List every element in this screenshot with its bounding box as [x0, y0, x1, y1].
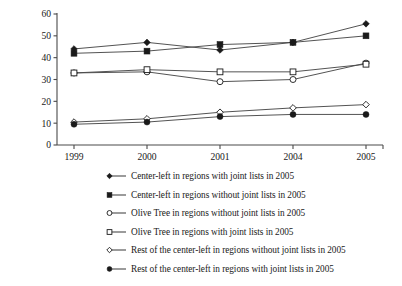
- data-point-marker: [363, 33, 369, 39]
- chart-svg: 010203040506019992000200120042005: [0, 0, 402, 165]
- data-point-marker: [290, 39, 296, 45]
- x-axis-tick-label: 1999: [64, 151, 83, 162]
- data-point-marker: [144, 67, 150, 73]
- data-point-marker: [217, 79, 223, 85]
- legend-marker-open-diamond-icon: [104, 243, 128, 257]
- y-axis-tick-label: 0: [46, 139, 51, 150]
- legend-item: Center-left in regions without joint lis…: [104, 186, 394, 205]
- x-axis-tick-label: 2001: [210, 151, 229, 162]
- data-point-marker: [363, 111, 369, 117]
- y-axis-tick-label: 30: [41, 74, 51, 85]
- data-point-marker: [290, 111, 296, 117]
- legend-marker-filled-diamond-icon: [104, 169, 128, 183]
- data-point-marker: [217, 114, 223, 120]
- x-axis-tick-label: 2000: [137, 151, 156, 162]
- y-axis-tick-label: 60: [41, 8, 51, 19]
- y-axis-tick-label: 40: [41, 52, 51, 63]
- data-point-marker: [144, 39, 151, 46]
- chart-legend: Center-left in regions with joint lists …: [104, 167, 394, 278]
- legend-item-label: Rest of the center-left in regions with …: [128, 264, 334, 274]
- legend-item: Olive Tree in regions with joint lists i…: [104, 223, 394, 242]
- legend-item-label: Olive Tree in regions without joint list…: [128, 208, 305, 218]
- data-point-marker: [71, 50, 77, 56]
- legend-item: Rest of the center-left in regions with …: [104, 260, 394, 279]
- data-point-marker: [144, 48, 150, 54]
- x-axis-tick-label: 2005: [356, 151, 375, 162]
- line-chart-plot: 010203040506019992000200120042005: [0, 0, 402, 165]
- legend-item-label: Olive Tree in regions with joint lists i…: [128, 227, 293, 237]
- data-point-marker: [217, 42, 223, 48]
- data-point-marker: [217, 69, 223, 75]
- data-point-marker: [71, 121, 77, 127]
- legend-item: Rest of the center-left in regions witho…: [104, 241, 394, 260]
- y-axis-tick-label: 20: [41, 96, 51, 107]
- data-point-marker: [290, 77, 296, 83]
- legend-marker-filled-circle-icon: [104, 262, 128, 276]
- legend-marker-filled-square-icon: [104, 188, 128, 202]
- x-axis-tick-label: 2004: [283, 151, 302, 162]
- y-axis-tick-label: 10: [41, 118, 51, 129]
- legend-item: Olive Tree in regions without joint list…: [104, 204, 394, 223]
- data-point-marker: [290, 105, 297, 112]
- legend-item-label: Center-left in regions without joint lis…: [128, 190, 306, 200]
- data-point-marker: [363, 101, 370, 108]
- legend-item: Center-left in regions with joint lists …: [104, 167, 394, 186]
- data-point-marker: [363, 21, 370, 28]
- data-point-marker: [71, 70, 77, 76]
- data-point-marker: [144, 119, 150, 125]
- legend-item-label: Center-left in regions with joint lists …: [128, 171, 294, 181]
- legend-item-label: Rest of the center-left in regions witho…: [128, 245, 346, 255]
- series-group: [71, 21, 370, 128]
- chart-figure: 010203040506019992000200120042005 Center…: [0, 0, 402, 286]
- data-point-marker: [363, 61, 369, 67]
- legend-marker-open-square-icon: [104, 225, 128, 239]
- legend-marker-open-circle-icon: [104, 206, 128, 220]
- y-axis-tick-label: 50: [41, 30, 51, 41]
- data-point-marker: [290, 69, 296, 75]
